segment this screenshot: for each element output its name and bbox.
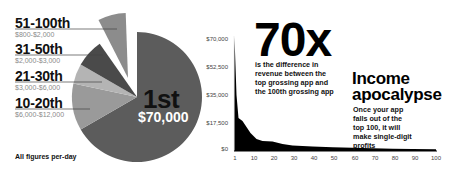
- x-tick-80: 80: [385, 155, 405, 161]
- y-tick-70000: $70,000: [188, 36, 228, 42]
- callout2-title-line2: apocalypse: [352, 86, 442, 103]
- x-tick-90: 90: [405, 155, 425, 161]
- x-tick-70: 70: [365, 155, 385, 161]
- x-tick-10: 10: [244, 155, 264, 161]
- footnote: All figures per-day: [15, 153, 76, 160]
- tier-31-50-range: $2,000-$3,000: [15, 57, 60, 65]
- x-tick-30: 30: [284, 155, 304, 161]
- x-tick-40: 40: [304, 155, 324, 161]
- callout-headline: 70x: [254, 18, 331, 62]
- top-rank-value: $70,000: [138, 110, 189, 124]
- tier-21-30-range: $3,000-$6,000: [15, 84, 60, 92]
- y-tick-17500: $17,500: [188, 120, 228, 126]
- y-tick-35000: $35,000: [188, 92, 228, 98]
- tier-31-50-name: 31-50th: [15, 42, 63, 56]
- tier-10-20-name: 10-20th: [15, 96, 63, 110]
- x-tick-20: 20: [264, 155, 284, 161]
- tier-21-30-name: 21-30th: [15, 69, 63, 83]
- tier-10-20-range: $6,000-$12,000: [15, 111, 64, 119]
- y-tick-0: $0: [188, 146, 228, 152]
- tier-51-100-range: $800-$2,000: [15, 31, 54, 39]
- callout-text: is the difference in revenue between the…: [255, 60, 337, 96]
- x-tick-1: 1: [225, 155, 245, 161]
- callout2-text: Once your app falls out of the top 100, …: [353, 105, 413, 150]
- tier-51-100-name: 51-100th: [15, 16, 70, 30]
- x-tick-50: 50: [324, 155, 344, 161]
- y-tick-52500: $52,500: [188, 64, 228, 70]
- x-tick-60: 60: [345, 155, 365, 161]
- x-tick-100: 100: [426, 155, 446, 161]
